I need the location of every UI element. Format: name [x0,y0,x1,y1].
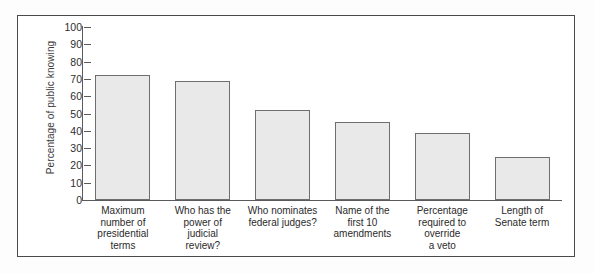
bar [175,81,230,200]
x-axis-category-label-line: power of [160,217,246,229]
bar [495,157,550,200]
y-axis-tick-label: 50 [56,109,82,119]
figure-canvas: Percentage of public knowing 10090807060… [0,0,594,273]
y-axis-tick-label: 30 [56,143,82,153]
x-axis-category-label-line: override [399,228,485,240]
x-axis-category-label-line: presidential [80,228,166,240]
y-axis-tick-labels: 1009080706050403020100 [54,27,82,200]
bar [415,133,470,200]
bar [255,110,310,200]
x-axis-category-labels: Maximumnumber ofpresidentialtermsWho has… [83,205,562,265]
x-axis-category-label: Who has thepower ofjudicialreview? [160,205,246,251]
x-axis-category-label: Percentagerequired tooverridea veto [399,205,485,251]
y-axis-tick-label: 10 [56,178,82,188]
x-axis-category-label: Name of thefirst 10amendments [319,205,405,240]
y-axis-tick-label: 0 [56,195,82,205]
x-axis-category-label-line: Who has the [160,205,246,217]
x-axis-category-label-line: terms [80,240,166,252]
x-axis-category-label-line: a veto [399,240,485,252]
bar [95,75,150,200]
x-axis-category-label-line: Maximum [80,205,166,217]
x-axis-line [82,200,562,201]
y-axis-tick-label: 40 [56,126,82,136]
y-axis-tick-label: 90 [56,39,82,49]
x-axis-category-label-line: judicial [160,228,246,240]
x-axis-category-label-line: Name of the [319,205,405,217]
x-axis-category-label-line: number of [80,217,166,229]
y-axis-tick-label: 60 [56,91,82,101]
chart-frame: Percentage of public knowing 10090807060… [17,15,575,257]
y-axis-tick-label: 80 [56,57,82,67]
x-axis-category-label-line: review? [160,240,246,252]
x-axis-category-label-line: first 10 [319,217,405,229]
x-axis-category-label-line: Length of [479,205,565,217]
x-axis-category-label-line: amendments [319,228,405,240]
x-axis-category-label-line: required to [399,217,485,229]
x-axis-category-label: Length ofSenate term [479,205,565,228]
x-axis-category-label: Maximumnumber ofpresidentialterms [80,205,166,251]
y-axis-tick-label: 70 [56,74,82,84]
y-axis-tick-label: 100 [56,22,82,32]
bar [335,122,390,200]
y-axis-tick-label: 20 [56,160,82,170]
x-axis-category-label-line: Senate term [479,217,565,229]
x-axis-category-label-line: Percentage [399,205,485,217]
x-axis-category-label-line: Who nominates [240,205,326,217]
plot-area [83,27,562,200]
x-axis-category-label-line: federal judges? [240,217,326,229]
x-axis-category-label: Who nominatesfederal judges? [240,205,326,228]
